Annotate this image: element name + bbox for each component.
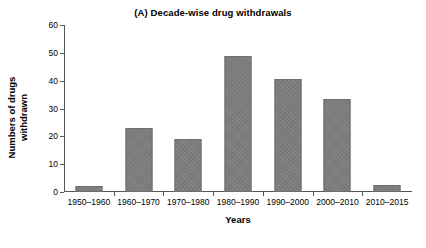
chart-figure: (A) Decade-wise drug withdrawals Numbers… (0, 0, 426, 248)
y-tick-label: 50 (49, 48, 58, 57)
plot-area: 0102030405060 (64, 25, 412, 192)
bar-slot (163, 25, 213, 192)
y-tick-label: 40 (49, 76, 58, 85)
bar (224, 56, 251, 192)
x-axis-title: Years (64, 214, 412, 225)
y-tick-label: 20 (49, 132, 58, 141)
x-axis-tick-labels: 1950–19601960–19701970–19801980–19901990… (64, 197, 412, 211)
y-tick-label: 30 (49, 104, 58, 113)
y-tick-label: 0 (53, 188, 58, 197)
bar-slot (362, 25, 412, 192)
y-tick-label: 10 (49, 160, 58, 169)
y-tick-label: 60 (49, 21, 58, 30)
bar (175, 139, 202, 192)
bar-slot (313, 25, 363, 192)
bar (274, 79, 301, 192)
bar-slot (263, 25, 313, 192)
x-tick-mark (163, 192, 164, 196)
y-axis-title-line-1: Numbers of drugs (7, 77, 19, 159)
bar (324, 99, 351, 192)
x-tick-mark (263, 192, 264, 196)
x-tick-label: 1990–2000 (266, 197, 309, 207)
bar-slot (114, 25, 164, 192)
bar (374, 185, 401, 192)
bar-slot (64, 25, 114, 192)
bar-series (64, 25, 412, 192)
x-tick-mark (313, 192, 314, 196)
x-tick-mark (362, 192, 363, 196)
x-tick-label: 1960–1970 (117, 197, 160, 207)
x-tick-label: 2000–2010 (316, 197, 359, 207)
y-axis-title: Numbers of drugs withdrawn (4, 45, 32, 190)
x-tick-label: 1980–1990 (217, 197, 260, 207)
chart-title: (A) Decade-wise drug withdrawals (0, 7, 426, 18)
bar (75, 186, 102, 192)
y-tick-mark (60, 192, 64, 193)
bar (125, 128, 152, 192)
x-tick-mark (114, 192, 115, 196)
x-tick-label: 1970–1980 (167, 197, 210, 207)
y-axis-title-line-2: withdrawn (18, 77, 30, 159)
x-tick-label: 2010–2015 (366, 197, 409, 207)
x-tick-label: 1950–1960 (68, 197, 111, 207)
x-tick-mark (213, 192, 214, 196)
bar-slot (213, 25, 263, 192)
